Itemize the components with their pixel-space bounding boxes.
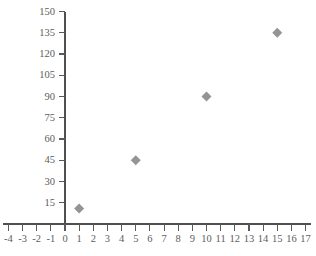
y-tick-label: 15: [0, 198, 55, 209]
data-point-marker: [74, 203, 84, 213]
y-tick-label: 120: [0, 49, 55, 60]
y-tick-label: 150: [0, 6, 55, 17]
x-tick-label: 1: [77, 234, 82, 245]
data-point-marker: [272, 28, 282, 38]
x-tick-label: 10: [201, 234, 212, 245]
x-tick-label: -4: [4, 234, 13, 245]
x-tick-label: 6: [147, 234, 152, 245]
data-point-marker: [202, 92, 212, 102]
x-tick-label: 17: [300, 234, 311, 245]
x-tick-label: 4: [119, 234, 124, 245]
x-tick-label: 0: [62, 234, 67, 245]
x-tick-label: 2: [91, 234, 96, 245]
x-tick-label: -3: [18, 234, 27, 245]
y-axis: [59, 12, 66, 225]
y-tick-label: 135: [0, 28, 55, 39]
y-tick-label: 60: [0, 134, 55, 145]
x-tick-label: 16: [286, 234, 297, 245]
data-markers: [74, 28, 282, 214]
x-tick-label: -1: [46, 234, 55, 245]
x-tick-label: 5: [133, 234, 138, 245]
y-tick-label: 75: [0, 113, 55, 124]
data-point-marker: [131, 155, 141, 165]
scatter-chart: 153045607590105120135150 -4-3-2-10123456…: [0, 0, 316, 256]
x-tick-label: 14: [258, 234, 269, 245]
x-tick-label: 3: [105, 234, 110, 245]
y-tick-label: 105: [0, 70, 55, 81]
x-tick-label: 9: [190, 234, 195, 245]
y-tick-label: 90: [0, 91, 55, 102]
x-tick-label: -2: [32, 234, 41, 245]
x-tick-label: 7: [161, 234, 166, 245]
x-tick-label: 15: [272, 234, 283, 245]
plot-area: [0, 0, 316, 256]
x-tick-label: 11: [216, 234, 226, 245]
x-tick-label: 13: [244, 234, 255, 245]
x-axis: [3, 224, 310, 231]
y-tick-label: 45: [0, 155, 55, 166]
x-tick-label: 8: [176, 234, 181, 245]
y-tick-label: 30: [0, 176, 55, 187]
x-tick-label: 12: [230, 234, 241, 245]
